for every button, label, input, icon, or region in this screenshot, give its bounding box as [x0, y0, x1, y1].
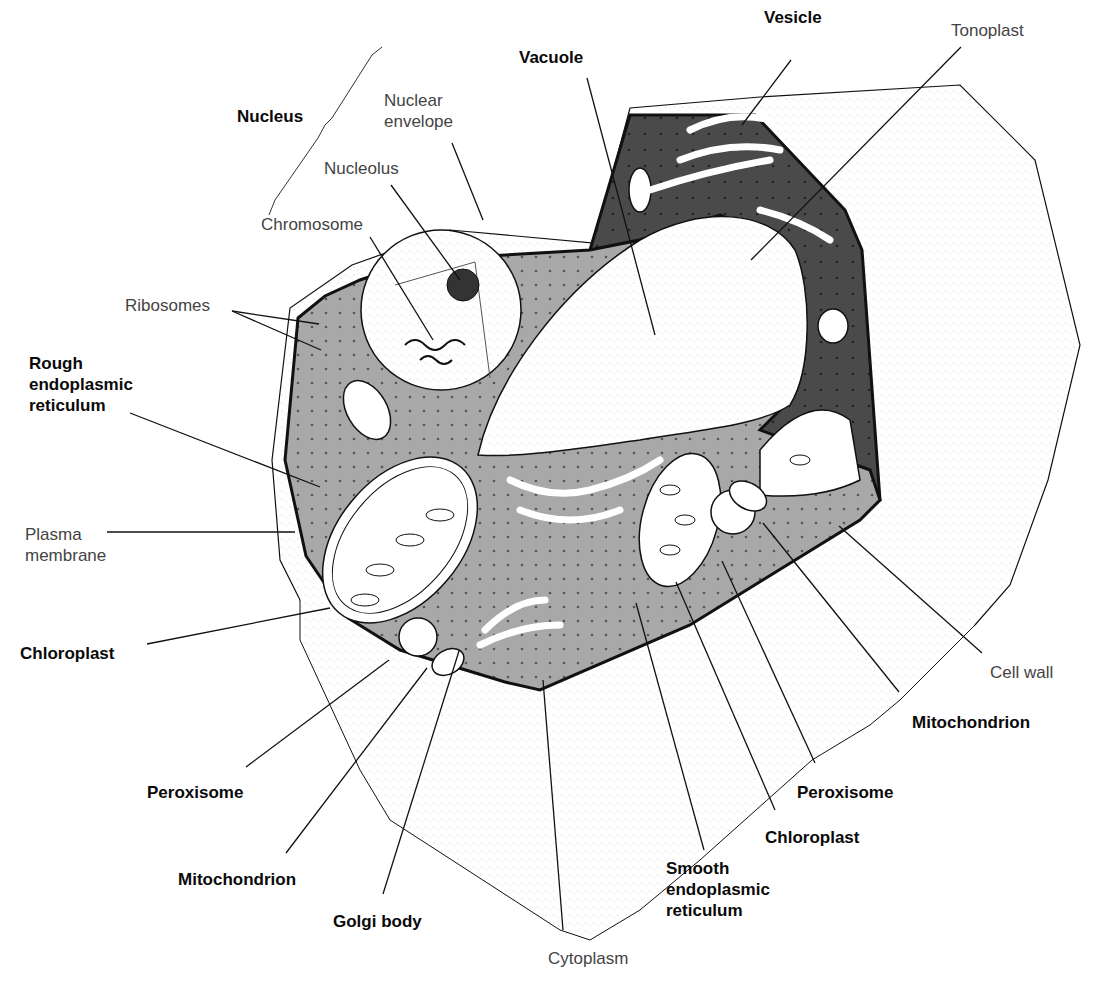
label-ribosomes: Ribosomes — [125, 295, 210, 316]
label-mitochondrion-left: Mitochondrion — [178, 869, 296, 890]
label-peroxisome-left: Peroxisome — [147, 782, 243, 803]
label-cell-wall: Cell wall — [990, 662, 1053, 683]
label-tonoplast: Tonoplast — [951, 20, 1024, 41]
label-nucleus: Nucleus — [237, 106, 303, 127]
label-nuclear-envelope: Nuclear envelope — [384, 90, 453, 132]
plant-cell-diagram — [0, 0, 1099, 995]
label-cytoplasm: Cytoplasm — [548, 948, 628, 969]
label-vacuole: Vacuole — [519, 47, 583, 68]
label-mitochondrion-right: Mitochondrion — [912, 712, 1030, 733]
label-plasma-membrane: Plasma membrane — [25, 524, 106, 566]
label-golgi-body: Golgi body — [333, 911, 422, 932]
label-chloroplast-right: Chloroplast — [765, 827, 859, 848]
label-chromosome: Chromosome — [261, 214, 363, 235]
label-peroxisome-right: Peroxisome — [797, 782, 893, 803]
leader-line-nuclear-envelope — [452, 143, 483, 220]
label-chloroplast-left: Chloroplast — [20, 643, 114, 664]
label-smooth-er: Smooth endoplasmic reticulum — [666, 858, 770, 921]
nucleus-brace — [269, 47, 382, 215]
label-nucleolus: Nucleolus — [324, 158, 399, 179]
label-rough-er: Rough endoplasmic reticulum — [29, 353, 133, 416]
label-vesicle: Vesicle — [764, 7, 822, 28]
